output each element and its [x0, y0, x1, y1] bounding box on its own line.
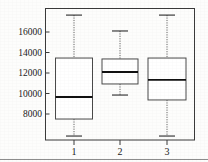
x-axis-ticks [74, 140, 167, 145]
x-tick-label-3: 3 [165, 146, 170, 157]
x-tick-label-2: 2 [118, 146, 123, 157]
boxplot-figure: 16000 14000 12000 10000 8000 1 2 3 [0, 0, 208, 162]
box-3 [148, 58, 186, 100]
box-1 [56, 58, 93, 119]
y-tick-label-8000: 8000 [23, 109, 42, 119]
x-axis-labels: 1 2 3 [72, 146, 170, 157]
y-tick-label-10000: 10000 [18, 89, 42, 99]
box-group-3 [148, 15, 186, 136]
box-series [56, 15, 187, 136]
box-group-1 [56, 15, 93, 136]
box-group-2 [102, 31, 138, 95]
y-tick-label-12000: 12000 [18, 68, 42, 78]
boxplot-canvas: 16000 14000 12000 10000 8000 1 2 3 [0, 0, 208, 162]
y-axis-ticks [46, 32, 50, 114]
y-tick-label-16000: 16000 [18, 27, 42, 37]
y-axis-labels: 16000 14000 12000 10000 8000 [18, 27, 42, 119]
x-tick-label-1: 1 [72, 146, 77, 157]
y-tick-label-14000: 14000 [18, 48, 42, 58]
